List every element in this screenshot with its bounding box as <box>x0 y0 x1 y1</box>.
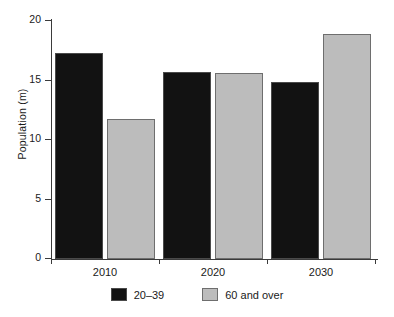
bar-2010-age-20-39 <box>55 53 103 259</box>
legend-swatch-icon <box>111 288 127 301</box>
legend-entry-age-20-39: 20–39 <box>111 288 165 301</box>
y-axis-tick-label: 15 <box>29 73 41 85</box>
bar-2030-age-60-and-over <box>323 34 371 259</box>
bar-2030-age-20-39 <box>271 82 319 259</box>
y-axis-tick: 5 <box>45 199 51 200</box>
x-axis-category-label: 2020 <box>201 266 225 278</box>
x-axis-tick <box>375 259 376 264</box>
x-axis-tick <box>267 259 268 264</box>
chart-legend: 20–3960 and over <box>0 288 394 301</box>
legend-label: 20–39 <box>134 289 165 301</box>
y-axis-tick-label: 5 <box>35 192 41 204</box>
legend-entry-age-60-and-over: 60 and over <box>202 288 283 301</box>
bar-2010-age-60-and-over <box>107 119 155 259</box>
y-axis-tick-label: 20 <box>29 13 41 25</box>
x-axis-category-label: 2010 <box>93 266 117 278</box>
y-axis-title: Population (m) <box>16 64 28 184</box>
y-axis-tick: 15 <box>45 80 51 81</box>
y-axis-tick: 20 <box>45 20 51 21</box>
y-axis-tick-label: 0 <box>35 251 41 263</box>
bar-chart-figure: Population (m) 05101520 20–3960 and over… <box>0 0 394 317</box>
y-axis-tick-label: 10 <box>29 132 41 144</box>
x-axis-line <box>51 259 378 260</box>
x-axis-tick <box>51 259 52 264</box>
x-axis-tick <box>159 259 160 264</box>
x-axis-category-label: 2030 <box>309 266 333 278</box>
bar-2020-age-20-39 <box>163 72 211 259</box>
legend-swatch-icon <box>202 288 218 301</box>
plot-area: 05101520 <box>51 21 375 259</box>
y-axis-tick: 10 <box>45 139 51 140</box>
bar-2020-age-60-and-over <box>215 73 263 259</box>
legend-label: 60 and over <box>225 289 283 301</box>
